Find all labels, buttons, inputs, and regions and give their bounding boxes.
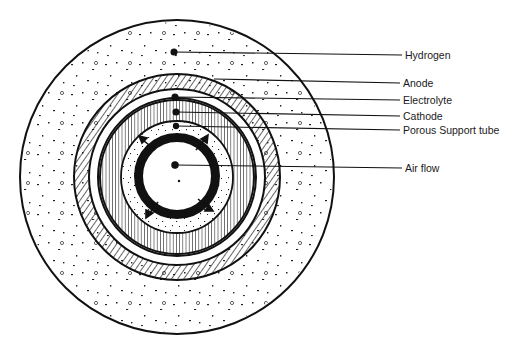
label-cathode: Cathode [403,110,443,122]
label-porous-support-tube: Porous Support tube [403,124,499,136]
label-air-flow: Air flow [405,162,439,174]
label-hydrogen: Hydrogen [405,49,451,61]
label-electrolyte: Electrolyte [403,94,452,106]
label-anode: Anode [403,77,433,89]
